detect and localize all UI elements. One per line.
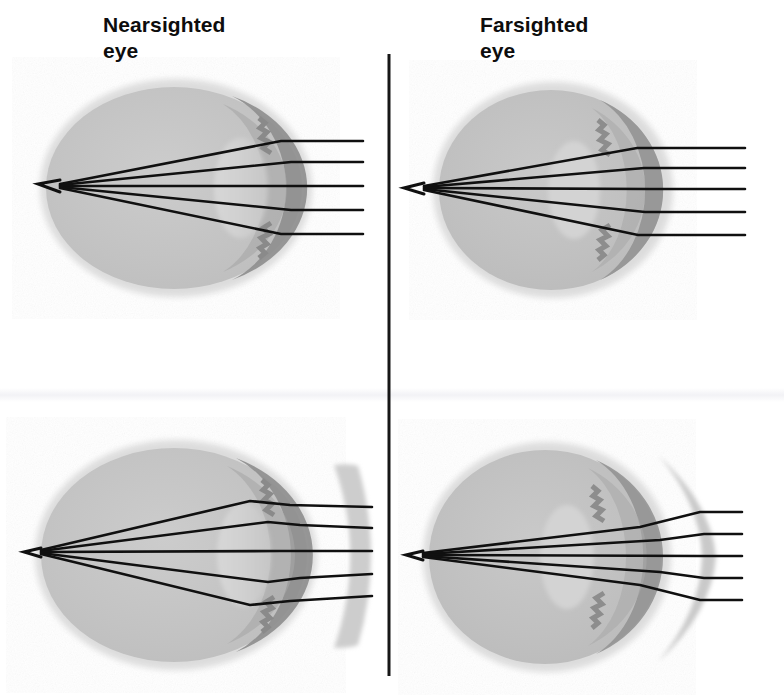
focal-point-tail	[404, 183, 424, 194]
eye-diagram-canvas	[0, 0, 784, 699]
concave-corrective-lens	[334, 464, 371, 648]
column-label-farsighted: Farsighted eye	[480, 12, 588, 64]
refractive-error-figure: Nearsighted eye Farsighted eye	[0, 0, 784, 699]
crystalline-lens	[217, 503, 271, 607]
light-ray	[423, 555, 742, 556]
light-ray	[41, 551, 372, 552]
panel-nearsighted-uncorrected	[38, 79, 363, 297]
column-label-nearsighted: Nearsighted eye	[103, 12, 225, 64]
panel-farsighted-corrected	[406, 442, 742, 672]
eyeball-nearsighted-bottom	[35, 440, 317, 670]
panel-farsighted-uncorrected	[404, 82, 745, 298]
panel-nearsighted-corrected	[24, 440, 372, 670]
focal-point-tail	[406, 551, 423, 560]
crystalline-lens	[540, 505, 594, 609]
light-ray	[424, 188, 745, 189]
